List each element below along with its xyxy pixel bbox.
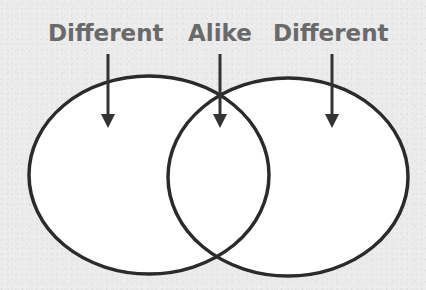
label-right-different: Different xyxy=(273,20,389,46)
label-alike: Alike xyxy=(188,20,252,46)
label-left-different: Different xyxy=(48,20,164,46)
